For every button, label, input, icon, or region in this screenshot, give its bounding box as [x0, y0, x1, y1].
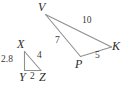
vertex-label-v: V [38, 1, 45, 13]
vertex-label-p: P [75, 58, 82, 70]
vertex-label-k: K [112, 40, 120, 52]
length-label-pk: 5 [95, 51, 100, 61]
geometry-figure: X Y Z V P K 2.8 4 2 7 10 5 [0, 0, 126, 91]
vertex-label-y: Y [19, 71, 26, 83]
length-label-xy: 2.8 [1, 55, 13, 65]
vertex-label-z: Z [39, 71, 46, 83]
length-label-xz: 4 [37, 51, 42, 61]
vertex-label-x: X [17, 38, 24, 50]
length-label-yz: 2 [30, 72, 35, 82]
length-label-vp: 7 [55, 36, 60, 46]
length-label-vk: 10 [82, 16, 92, 26]
segment-vp [46, 15, 81, 57]
